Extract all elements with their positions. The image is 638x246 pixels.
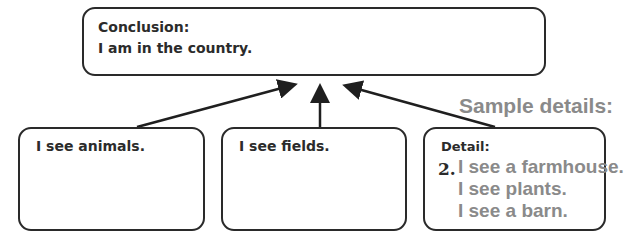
sample-detail-1: I see a farmhouse. [458,156,624,178]
conclusion-text: I am in the country. [98,40,252,56]
detail-text: I see animals. [36,138,145,154]
detail-box-2: I see fields. [221,127,407,231]
sample-details-label: Sample details: [459,94,613,118]
conclusion-box: Conclusion: I am in the country. [82,7,546,76]
sample-detail-2: I see plants. [458,178,567,200]
detail-number: 2. [438,159,456,179]
conclusion-heading: Conclusion: [98,19,189,35]
detail-heading: Detail: [441,139,490,154]
detail-text: I see fields. [239,138,330,154]
arrow-left [137,85,293,127]
detail-box-1: I see animals. [18,127,205,231]
sample-detail-3: I see a barn. [458,200,568,222]
